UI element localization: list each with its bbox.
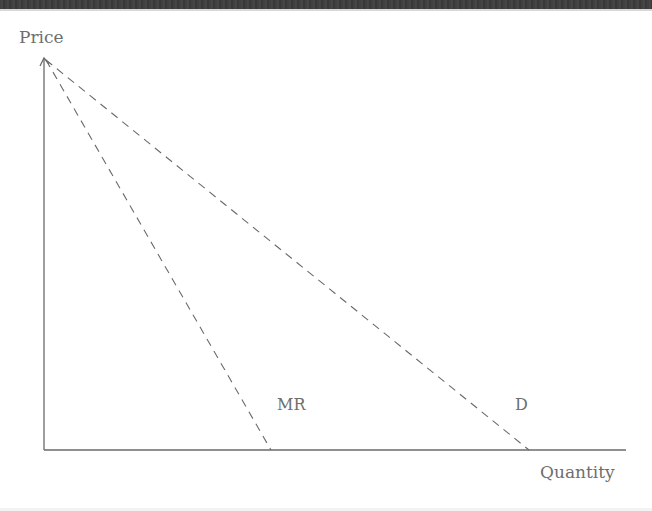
- mr-curve: [46, 60, 271, 450]
- demand-curve: [46, 60, 529, 450]
- mr-label: MR: [277, 397, 305, 413]
- x-axis-label: Quantity: [540, 464, 615, 481]
- y-axis-label: Price: [19, 29, 64, 46]
- demand-mr-diagram: [0, 0, 652, 511]
- demand-label: D: [515, 397, 528, 413]
